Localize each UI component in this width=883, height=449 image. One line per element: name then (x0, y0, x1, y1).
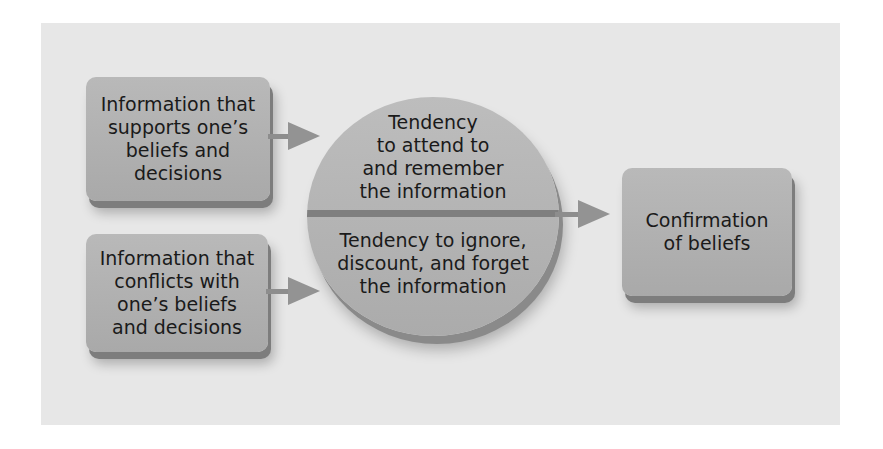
conflicting-info-label: Information that conflicts with one’s be… (100, 247, 255, 339)
conflicting-info-box: Information that conflicts with one’s be… (86, 234, 268, 352)
processing-circle: Tendency to attend to and remember the i… (307, 97, 559, 336)
arrow-output-head-icon (578, 200, 610, 228)
circle-divider (307, 210, 559, 217)
confirmation-label: Confirmation of beliefs (646, 209, 769, 255)
attend-remember-text: Tendency to attend to and remember the i… (307, 111, 559, 203)
ignore-forget-text: Tendency to ignore, discount, and forget… (307, 229, 559, 298)
supporting-info-box: Information that supports one’s beliefs … (86, 77, 270, 201)
supporting-info-label: Information that supports one’s beliefs … (101, 93, 256, 185)
confirmation-box: Confirmation of beliefs (622, 168, 792, 296)
